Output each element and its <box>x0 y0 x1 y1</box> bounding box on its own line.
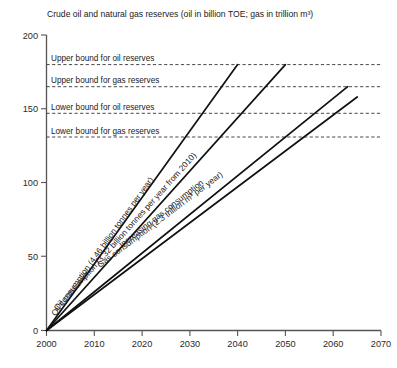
y-tick-label: 150 <box>23 104 38 114</box>
x-axis-ticks <box>47 331 382 337</box>
x-tick-label: 2070 <box>371 339 391 349</box>
x-tick-label: 2010 <box>84 339 104 349</box>
x-tick-label: 2050 <box>275 339 295 349</box>
x-axis-tick-labels: 2000 2010 2020 2030 2040 2050 2060 2070 <box>36 339 391 349</box>
y-tick-label: 0 <box>33 326 38 336</box>
y-tick-label: 200 <box>23 31 38 41</box>
upper-bound-gas-label: Upper bound for gas reserves <box>51 76 159 85</box>
series-line-increasing-gas <box>47 87 348 331</box>
series-labels: Oil consumption (4.46 billion tonnes per… <box>49 150 225 317</box>
y-tick-label: 100 <box>23 178 38 188</box>
x-tick-label: 2060 <box>323 339 343 349</box>
series-label-oil-332: Oil consumption (3.32 billion tonnes per… <box>52 150 199 312</box>
upper-bound-oil-label: Upper bound for oil reserves <box>51 54 154 63</box>
chart-container: Crude oil and natural gas reserves (oil … <box>0 0 397 368</box>
lower-bound-gas-label: Lower bound for gas reserves <box>51 127 159 136</box>
y-tick-label: 50 <box>28 252 38 262</box>
lower-bound-oil-label: Lower bound for oil reserves <box>51 103 154 112</box>
reserves-chart-svg: Crude oil and natural gas reserves (oil … <box>0 0 397 368</box>
reference-line-labels: Upper bound for oil reserves Upper bound… <box>51 54 159 136</box>
x-tick-label: 2040 <box>227 339 247 349</box>
x-tick-label: 2000 <box>36 339 56 349</box>
y-axis-ticks <box>41 35 47 331</box>
x-tick-label: 2030 <box>180 339 200 349</box>
y-axis-tick-labels: 200 150 100 50 0 <box>23 31 38 337</box>
x-tick-label: 2020 <box>132 339 152 349</box>
chart-title: Crude oil and natural gas reserves (oil … <box>47 9 313 19</box>
